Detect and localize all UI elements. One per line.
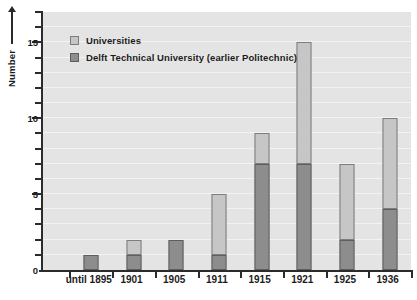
bar-1915 bbox=[254, 133, 269, 270]
gridline bbox=[43, 239, 411, 240]
x-axis-label: 1921 bbox=[291, 274, 313, 285]
x-axis-label: 1901 bbox=[120, 274, 142, 285]
x-axis-line bbox=[39, 270, 411, 272]
bar-1936 bbox=[382, 118, 397, 270]
x-axis-label: 1936 bbox=[377, 274, 399, 285]
bar-segment-universities bbox=[254, 133, 269, 163]
y-tick-minor bbox=[35, 87, 43, 89]
gridline bbox=[43, 102, 411, 103]
gridline bbox=[43, 132, 411, 133]
bar-1901 bbox=[126, 240, 141, 270]
y-axis-label: 15 bbox=[14, 37, 38, 48]
y-tick-minor bbox=[35, 57, 43, 59]
bar-segment-delft bbox=[297, 164, 312, 270]
y-tick-minor bbox=[35, 132, 43, 134]
bar-segment-delft bbox=[211, 255, 226, 270]
legend-swatch-delft bbox=[70, 53, 79, 62]
y-tick-minor bbox=[35, 208, 43, 210]
stacked-bar-chart: Number Universities Delft Technical Univ… bbox=[0, 0, 417, 300]
gridline bbox=[43, 72, 411, 73]
legend-label-universities: Universities bbox=[86, 35, 141, 46]
gridline bbox=[43, 26, 411, 27]
y-tick-minor bbox=[35, 239, 43, 241]
bar-segment-universities bbox=[339, 164, 354, 240]
y-tick-minor bbox=[35, 223, 43, 225]
legend-swatch-universities bbox=[70, 36, 79, 45]
gridline bbox=[43, 148, 411, 149]
bar-segment-delft bbox=[339, 240, 354, 270]
legend: Universities Delft Technical University … bbox=[70, 33, 297, 67]
y-axis-label: 0 bbox=[14, 265, 38, 276]
y-tick-minor bbox=[35, 178, 43, 180]
y-tick-minor bbox=[35, 148, 43, 150]
bar-until-1895 bbox=[83, 255, 98, 270]
y-axis-label: 5 bbox=[14, 189, 38, 200]
y-tick-minor bbox=[35, 72, 43, 74]
legend-label-delft: Delft Technical University (earlier Poli… bbox=[86, 52, 297, 63]
x-axis-label: 1905 bbox=[163, 274, 185, 285]
bar-1921 bbox=[297, 42, 312, 270]
bar-segment-delft bbox=[83, 255, 98, 270]
x-axis-label: 1925 bbox=[334, 274, 356, 285]
gridline bbox=[43, 87, 411, 88]
x-tick bbox=[411, 270, 413, 278]
legend-item-delft: Delft Technical University (earlier Poli… bbox=[70, 50, 297, 64]
y-axis-title: Number bbox=[6, 41, 17, 97]
y-tick-minor bbox=[35, 163, 43, 165]
y-axis-title-group: Number bbox=[0, 8, 24, 118]
gridline bbox=[43, 223, 411, 224]
bar-1925 bbox=[339, 164, 354, 270]
bar-segment-delft bbox=[254, 164, 269, 270]
bar-segment-universities bbox=[297, 42, 312, 163]
bar-segment-delft bbox=[126, 255, 141, 270]
gridline bbox=[43, 193, 411, 194]
x-axis-label: 1915 bbox=[248, 274, 270, 285]
y-tick-minor bbox=[35, 11, 43, 13]
bar-segment-universities bbox=[382, 118, 397, 209]
gridline bbox=[43, 163, 411, 164]
gridline bbox=[43, 208, 411, 209]
gridline bbox=[43, 117, 411, 118]
bar-segment-universities bbox=[211, 194, 226, 255]
legend-item-universities: Universities bbox=[70, 33, 297, 47]
bar-segment-delft bbox=[382, 209, 397, 270]
gridline bbox=[43, 178, 411, 179]
y-axis-label: 10 bbox=[14, 113, 38, 124]
bar-1911 bbox=[211, 194, 226, 270]
x-axis-label: 1911 bbox=[206, 274, 228, 285]
bar-segment-universities bbox=[126, 240, 141, 255]
bar-segment-delft bbox=[169, 240, 184, 270]
plot-area: Universities Delft Technical University … bbox=[41, 12, 411, 270]
y-tick-minor bbox=[35, 102, 43, 104]
up-arrow-icon bbox=[11, 10, 13, 44]
bar-1905 bbox=[169, 240, 184, 270]
y-tick-minor bbox=[35, 254, 43, 256]
x-axis-label: until 1895 bbox=[66, 274, 112, 285]
y-tick-minor bbox=[35, 26, 43, 28]
